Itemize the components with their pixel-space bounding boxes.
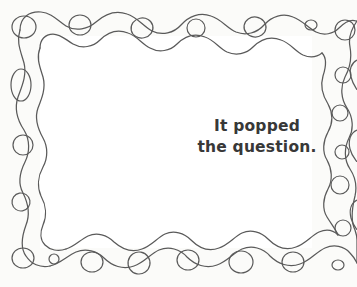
frame-bead xyxy=(129,16,155,40)
frame-bead xyxy=(11,69,31,101)
frame-bead xyxy=(282,252,304,272)
frame-bead xyxy=(335,145,349,159)
frame-bead xyxy=(331,176,349,194)
frame-bead-small xyxy=(332,260,344,270)
frame-inner-wave-left xyxy=(36,48,66,250)
frame-inner-wave-bottom xyxy=(66,230,338,250)
frame-bead xyxy=(243,16,268,39)
frame-bead xyxy=(126,250,151,275)
frame-bead xyxy=(332,105,348,121)
caption-text: It popped the question. xyxy=(186,116,328,158)
worksheet-page: It popped the question. xyxy=(0,0,357,287)
frame-bead xyxy=(69,15,91,35)
caption-line-2: the question. xyxy=(186,137,328,158)
frame-bead xyxy=(177,250,199,270)
frame-bead xyxy=(187,19,205,37)
frame-bead xyxy=(13,135,33,155)
frame-bead xyxy=(229,251,253,273)
frame-bead xyxy=(81,252,103,272)
frame-outer-wave-bottom xyxy=(50,246,357,268)
frame-bead xyxy=(12,16,36,38)
frame-outer-wave-left xyxy=(16,30,50,267)
frame-bead-small xyxy=(49,254,59,264)
frame-bead xyxy=(335,220,351,236)
caption-line-1: It popped xyxy=(186,116,328,137)
